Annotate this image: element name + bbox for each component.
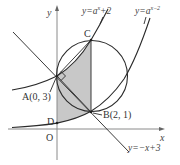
curve-leader-a-pow-x-minus-2 — [144, 17, 146, 24]
curve-label-a-pow-x-minus-2: y=ax−2 — [134, 5, 160, 16]
x-axis-label: x — [159, 132, 165, 143]
point-c — [90, 39, 93, 42]
x-axis-arrow-icon — [159, 127, 165, 131]
curve-label-a-pow-x-plus-2: y=ax+2 — [81, 5, 111, 16]
y-axis-label: y — [46, 7, 52, 18]
point-c-label: C — [84, 28, 91, 39]
y-axis-arrow-icon — [55, 5, 59, 11]
point-b-label: B(2, 1) — [103, 109, 131, 121]
line-label-y-neg-x-plus-3: y=−x+3 — [127, 143, 161, 153]
point-a-leader — [50, 78, 56, 92]
graph-figure: y x O C A(0, 3) D B(2, 1) y=ax+2 y=ax−2 … — [0, 0, 180, 165]
origin-label: O — [46, 132, 53, 143]
point-b-leader — [93, 113, 102, 115]
point-d-label: D — [47, 116, 54, 127]
point-a — [56, 75, 59, 78]
point-a-label: A(0, 3) — [22, 91, 51, 103]
point-d — [56, 122, 59, 125]
point-b — [90, 111, 93, 114]
